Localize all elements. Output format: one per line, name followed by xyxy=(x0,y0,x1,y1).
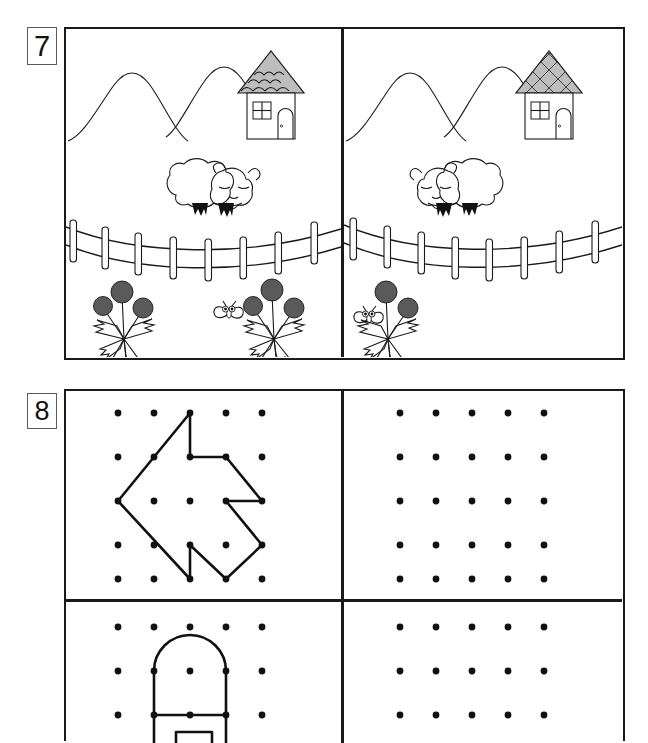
dot-grid-arrow xyxy=(66,391,341,599)
butterfly-left xyxy=(214,301,243,318)
house-left xyxy=(238,51,304,139)
exercise-7-panel-right xyxy=(344,29,622,357)
sheep-right xyxy=(410,159,503,217)
exercise-7-panel-left xyxy=(66,29,341,357)
fence-right xyxy=(344,218,622,281)
dot-grid-empty-bottom xyxy=(344,602,622,743)
mountains-right xyxy=(346,67,544,141)
dot-grid xyxy=(396,623,547,718)
exercise-8-panel-top-right xyxy=(344,391,622,599)
fence-left xyxy=(66,220,341,281)
exercise-8-panel-bottom-left xyxy=(66,602,341,743)
dot-grid-empty-top xyxy=(344,391,622,599)
dot-grid-arch xyxy=(66,602,341,743)
exercise-8-panel-top-left xyxy=(66,391,341,599)
exercise-number-7: 7 xyxy=(27,27,57,65)
dot-grid xyxy=(115,623,266,718)
dandelion-left-1 xyxy=(94,281,155,357)
arrow-figure xyxy=(118,413,262,579)
scene-left xyxy=(66,29,341,357)
exercise-7-frame xyxy=(64,27,625,360)
exercise-8-panel-bottom-right xyxy=(344,602,622,743)
scene-right xyxy=(344,29,622,357)
exercise-8-frame xyxy=(64,389,625,741)
arched-house-figure xyxy=(154,635,226,743)
dot-grid xyxy=(396,410,547,583)
dandelion-left-2 xyxy=(244,279,305,357)
exercise-number-8: 8 xyxy=(27,393,57,429)
house-right xyxy=(504,35,594,139)
mountains-left xyxy=(68,67,266,141)
butterfly-right xyxy=(353,306,382,323)
sheep-left xyxy=(167,159,260,217)
